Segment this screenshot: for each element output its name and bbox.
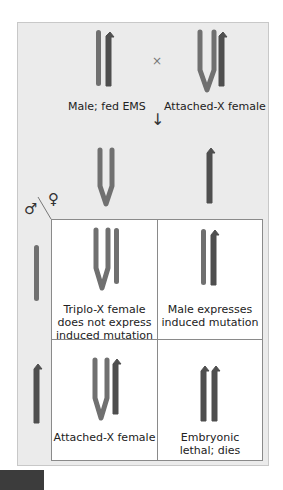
cell-label-lethal: Embryonic lethal; dies [158,431,262,457]
dark-footer-block [0,470,44,490]
attached-x-offspring-chromosomes-icon [93,358,125,422]
cell-label-male: Male expresses induced mutation [158,303,262,329]
cell-label-attached-x: Attached-X female [52,431,157,444]
male-gamete-y-icon [34,245,42,305]
male-offspring-chromosomes-icon [201,229,225,289]
arrow-down-icon: ↓ [151,113,164,126]
male-parent-label: Male; fed EMS [68,100,146,113]
female-parent-chromosomes-icon [198,30,228,94]
cell-label-triplo-x: Triplo-X female does not express induced… [52,303,157,342]
triplo-x-chromosomes-icon [94,228,124,292]
lethal-offspring-chromosomes-icon [200,365,226,425]
grid-divider-vertical [157,219,158,461]
female-gamete-attached-x-icon [98,148,118,208]
female-parent-label: Attached-X female [164,100,266,113]
male-parent-chromosomes-icon [96,30,116,90]
male-gamete-x-icon [206,147,218,207]
cross-symbol: × [152,55,162,68]
male-gamete-x-row-icon [33,363,47,427]
